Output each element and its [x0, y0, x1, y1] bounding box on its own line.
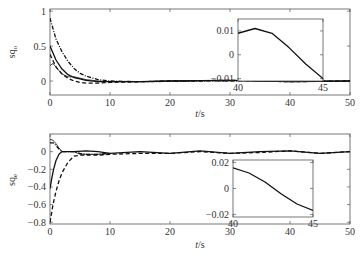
x-axis-label-unit: /s [198, 108, 205, 119]
y-tick-label: −0.01 [211, 73, 234, 84]
y-tick-label: −0.6 [28, 199, 46, 210]
y-tick-label: 1 [41, 6, 46, 17]
y-axis-label-subscript: o [11, 45, 19, 49]
y-tick-label: −0.4 [28, 181, 46, 192]
y-tick-label: 0.01 [217, 25, 235, 36]
x-tick-label: 40 [233, 82, 243, 93]
x-tick-label: 40 [285, 226, 295, 237]
x-axis-label-unit: /s [198, 239, 205, 250]
y-axis-label: sqe [6, 174, 19, 186]
inset-plot: 4045−0.0200.02 [206, 157, 318, 229]
y-axis-label-subscript: e [11, 174, 19, 177]
figure: 0102030405000.51sqot/s4045−0.0100.01 010… [0, 0, 360, 256]
x-tick-label: 50 [345, 226, 355, 237]
x-tick-label: 40 [285, 97, 295, 108]
x-tick-label: 0 [48, 226, 53, 237]
y-tick-label: 0 [224, 183, 229, 194]
x-tick-label: 20 [165, 226, 175, 237]
y-axis-label-main: sq [6, 49, 17, 58]
y-axis-label-main: sq [6, 177, 17, 186]
x-tick-label: 0 [48, 97, 53, 108]
x-axis-label: t/s [195, 108, 205, 119]
y-tick-label: 0 [41, 76, 46, 87]
y-tick-label: 0.5 [34, 41, 47, 52]
x-tick-label: 10 [105, 97, 115, 108]
inset-frame [238, 19, 323, 81]
x-tick-label: 40 [228, 218, 238, 229]
plot-sq-e: 01020304050−0.8−0.6−0.4−0.20sqet/s4045−0… [6, 134, 355, 250]
y-tick-label: −0.2 [28, 164, 46, 175]
x-tick-label: 45 [318, 82, 328, 93]
plot-sq-o: 0102030405000.51sqot/s4045−0.0100.01 [6, 6, 355, 119]
x-tick-label: 30 [225, 97, 235, 108]
x-axis-label: t/s [195, 239, 205, 250]
y-axis-label: sqo [6, 45, 19, 58]
y-tick-label: 0 [41, 146, 46, 157]
x-tick-label: 50 [345, 97, 355, 108]
y-tick-label: 0 [229, 49, 234, 60]
y-tick-label: −0.02 [206, 209, 229, 220]
x-tick-label: 20 [165, 97, 175, 108]
x-tick-label: 10 [105, 226, 115, 237]
y-tick-label: −0.8 [28, 217, 46, 228]
x-tick-label: 45 [308, 218, 318, 229]
y-tick-label: 0.02 [212, 157, 230, 168]
